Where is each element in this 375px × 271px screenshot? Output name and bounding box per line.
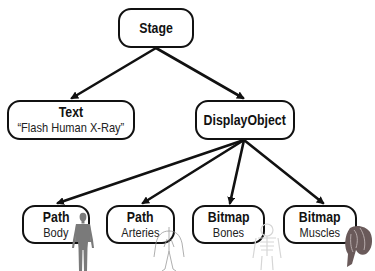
node-text: Text “Flash Human X-Ray” <box>7 100 135 140</box>
arteries-icon <box>152 225 186 271</box>
node-bitmap-muscles-title: Bitmap <box>299 209 341 225</box>
edge-stage-text <box>72 48 156 98</box>
bones-icon <box>250 222 284 270</box>
node-path-body-subtitle: Body <box>43 225 68 241</box>
node-bitmap-muscles-subtitle: Muscles <box>300 225 341 241</box>
node-stage-title: Stage <box>139 20 173 36</box>
node-path-arteries-title: Path <box>127 209 154 225</box>
node-path-body-title: Path <box>43 209 70 225</box>
muscles-icon <box>340 224 374 268</box>
edge-displayobject-arteries <box>143 140 244 203</box>
edge-displayobject-body <box>58 140 244 203</box>
display-list-diagram: Stage Text “Flash Human X-Ray” DisplayOb… <box>0 0 375 271</box>
node-bitmap-bones-subtitle: Bones <box>213 225 244 241</box>
node-text-subtitle: “Flash Human X-Ray” <box>18 120 125 136</box>
edge-displayobject-muscles <box>244 140 323 203</box>
edge-displayobject-bones <box>230 140 244 203</box>
node-displayobject-title: DisplayObject <box>204 112 286 128</box>
node-stage: Stage <box>118 8 194 48</box>
human-body-silhouette-icon <box>70 212 96 271</box>
node-displayobject: DisplayObject <box>195 100 295 140</box>
node-text-title: Text <box>59 104 83 120</box>
edge-stage-displayobject <box>156 48 243 98</box>
node-bitmap-bones-title: Bitmap <box>208 209 250 225</box>
